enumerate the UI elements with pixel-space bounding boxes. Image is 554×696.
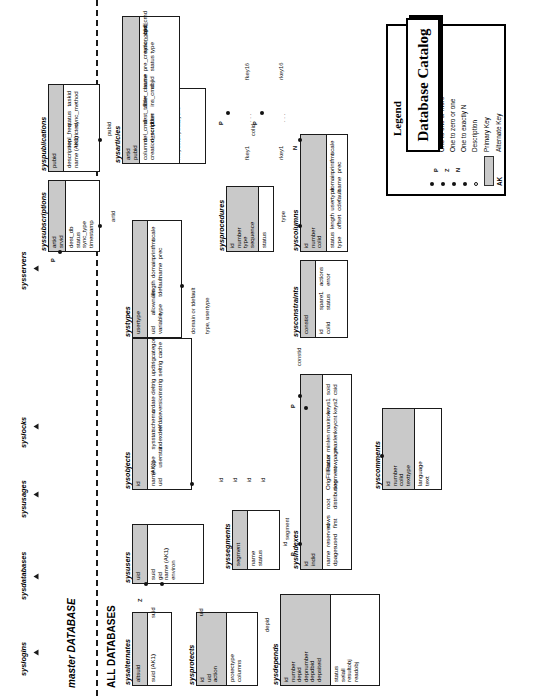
legend-label-7: Alternate Key [495,114,502,152]
field: suid (AK1) [150,616,157,682]
field: rowpage [332,454,339,471]
entity-sysobjects[interactable]: sysobjects id name uid type userstat sys… [132,338,192,490]
entity-title: syssegments [223,523,232,569]
field: timestamp [88,184,95,248]
field: tdefault [157,280,164,297]
field: name [336,175,343,192]
field: type [336,231,343,248]
field: artid [125,20,132,160]
arrow-sysdatabases [34,574,39,580]
field: objid [149,73,156,89]
field: prec [336,157,343,174]
rel-label-domain-tdefault: domain or tdefault [190,288,196,334]
field: cache [157,342,164,358]
entity-sysarticles[interactable]: sysarticles artid pubid columns creation… [122,16,180,164]
field: keys2 [332,397,339,414]
er-diagram-canvas: master DATABASE ALL DATABASES syslogins … [0,0,554,696]
entity-sysprocedures[interactable]: sysprocedures id number type sequence st… [226,186,274,252]
rel-label-colid: colid [250,124,256,136]
rel-sysusers-sysprotects-h [395,630,396,696]
entity-attr-block: status type length offset usertype cdefa… [327,135,347,251]
rel-label-uid: uid [198,608,204,616]
field: cdefault [336,194,343,211]
entity-syscomments[interactable]: syscomments id number colid texttype lan… [382,408,442,490]
rkey-label-16: rkey16 [278,63,284,80]
entity-attr-block: status [259,187,270,251]
legend-symbol-open-dot [474,182,478,186]
rel-cardinality-p: P [290,404,296,408]
entity-pk-block: artid srvid [49,181,66,251]
entity-title: sysindexes [291,530,300,569]
diagram-page: master DATABASE ALL DATABASES syslogins … [0,0,554,696]
entity-title: sysobjects [123,452,132,489]
rel-endpoint-dot [298,138,302,142]
entity-pk-block: id number colid [301,135,327,251]
field: text [424,412,431,486]
entity-attr-block: dest_db status sync_type timestamp [66,181,96,251]
legend-label-5: Description [471,120,478,152]
field: restricted [73,129,80,148]
entity-title: sysprotects [187,645,196,685]
field: pubid [132,20,139,160]
rail-label-id-1: id [218,477,224,482]
field: instrig [157,379,164,395]
entity-title: syscomments [373,441,382,489]
field: error [325,264,332,286]
entity-pk-block: uid [133,525,148,583]
rel-endpoint-dot [180,284,184,288]
rel-endpoint-dot [304,406,308,410]
entity-title: sysprocedures [217,200,226,251]
entity-attr-block: suid gid name (AK1) environ [148,525,178,583]
entity-attr-block: language text [415,409,432,489]
entity-pk-block: id number type sequence [227,187,259,251]
field: csid [332,378,339,395]
field: number [310,138,317,248]
entity-sysprotects[interactable]: sysprotects id uid action protectype col… [196,612,258,686]
entity-attr-block: description name (AK1) repl_freq restric… [64,85,98,171]
field: texttype [405,412,412,486]
entity-pk-block: usertype [133,221,148,337]
rel-cardinality-p: P [290,552,296,556]
entity-sysindexes[interactable]: sysindexes id indid name dpages reserved… [300,374,352,570]
entity-sysdepends[interactable]: sysdepends id number depid depnumber dep… [280,594,380,686]
entity-syssegments[interactable]: syssegments segment name status [232,510,280,570]
rel-endpoint-dot [144,582,148,586]
entity-pk-block: segment [233,511,248,569]
field: seltrig [157,360,164,376]
entity-systypes[interactable]: systypes usertype uid variable allownull… [132,220,182,338]
rel-label-pubid: pubid [106,122,112,136]
entity-title: sysalternates [123,639,132,685]
field: segment [235,514,242,566]
entity-sysalternates[interactable]: sysalternates altsuid suid (AK1) [132,612,172,686]
field: action [212,616,219,682]
rel-endpoint-dot [58,250,62,254]
rel-label-type-usertype: type, usertype [204,298,210,334]
field: creation_script [149,144,156,160]
entity-sysusers[interactable]: sysusers uid suid gid name (AK1) environ [132,524,204,584]
field: colid [316,138,323,248]
arrow-syslogins [34,650,39,656]
field: status [325,288,332,310]
rel-endpoint-dot [298,542,302,546]
entity-syspublications[interactable]: syspublications pubid description name (… [48,84,100,172]
entity-sysconstraints[interactable]: sysconstraints constid id colid spare1 s… [300,260,348,338]
entity-pk-block: id indid [301,375,323,569]
field: used [332,530,339,547]
legend-symbol-dot-2 [441,182,445,186]
field: ins_cmd [149,91,156,107]
field: sync_method [73,109,80,128]
entity-syssubscriptions[interactable]: syssubscriptions artid srvid dest_db sta… [48,180,100,252]
arrow-sysservers [34,266,39,272]
entity-attr-block: name status [248,511,265,569]
rail-label-id-3: id [246,477,252,482]
external-entity-syslocks: syslocks [19,417,28,448]
field: upd_cmd [142,20,149,36]
entity-syscolumns[interactable]: syscolumns id number colid status type l… [300,134,348,252]
rel-cardinality-n: N [292,146,298,150]
rel-endpoint-dot [298,394,302,398]
rel-endpoint-dot [160,582,164,586]
legend-label-3: One to zero or one [449,99,456,152]
rel-cardinality-z: Z [137,599,143,602]
legend-title: Legend [391,101,403,136]
external-entity-sysservers: sysservers [19,251,28,290]
